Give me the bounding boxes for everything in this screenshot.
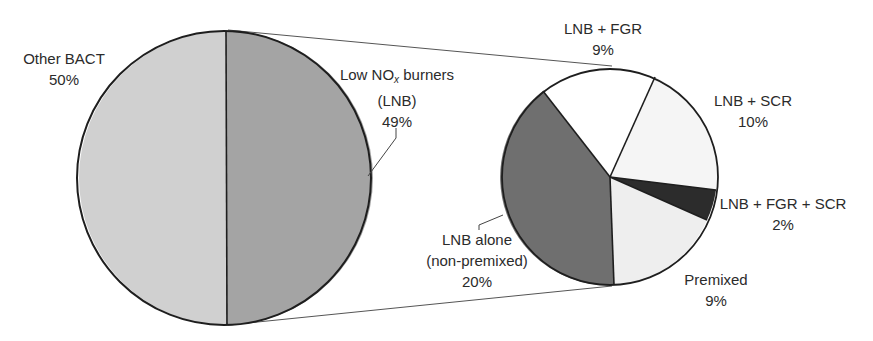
label-lnb-scr: LNB + SCR 10% (703, 90, 803, 132)
label-lnb-alone: LNB alone (non-premixed) 20% (412, 229, 542, 292)
label-other-bact: Other BACT 50% (16, 48, 112, 90)
label-low-nox-burners: Low NOx burners (LNB) 49% (332, 64, 462, 132)
leader-line-lnb-alone (479, 215, 503, 230)
main-pie (77, 31, 373, 325)
label-lnb-fgr: LNB + FGR 9% (553, 18, 653, 60)
label-premixed: Premixed 9% (666, 269, 766, 311)
label-lnb-fgr-scr: LNB + FGR + SCR 2% (713, 193, 853, 235)
